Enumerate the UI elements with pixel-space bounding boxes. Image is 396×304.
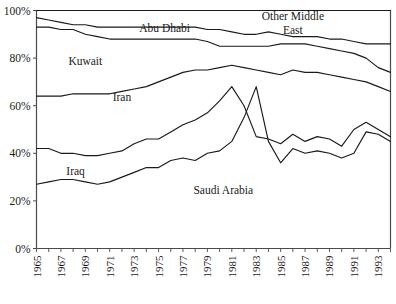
y-tick-label: 80% (9, 52, 31, 64)
y-tick-label: 20% (9, 195, 31, 207)
cumulative-share-line-chart: 0%20%40%60%80%100% Saudi ArabiaIraqIranK… (0, 0, 396, 304)
y-tick-label: 60% (9, 100, 31, 112)
series-label: Abu Dhabi (139, 22, 190, 34)
x-tick-label: 1965 (31, 255, 43, 278)
series-label: Saudi Arabia (193, 184, 253, 196)
x-tick-labels: 1965196719691971197319751977197919811983… (31, 255, 385, 278)
x-tick-label: 1967 (55, 255, 67, 278)
x-tick-label: 1989 (323, 255, 335, 278)
x-tick-label: 1987 (299, 255, 311, 278)
series-label: Iran (113, 91, 132, 103)
series-label: Kuwait (68, 55, 103, 67)
y-tick-label: 100% (4, 5, 31, 17)
y-tick-label: 0% (15, 243, 31, 255)
x-tick-label: 1985 (275, 255, 287, 278)
x-tick-label: 1983 (250, 255, 262, 278)
series-label: Other Middle (262, 10, 324, 22)
x-tick-label: 1993 (372, 255, 384, 278)
series-label: Iraq (66, 165, 85, 178)
x-tick-label: 1969 (79, 255, 91, 278)
x-tick-label: 1991 (348, 256, 360, 278)
x-tick-label: 1973 (128, 255, 140, 278)
x-tick-label: 1975 (153, 255, 165, 278)
y-tick-label: 40% (9, 147, 31, 159)
x-tick-label: 1977 (177, 255, 189, 278)
x-tick-label: 1981 (226, 256, 238, 278)
series-label: East (283, 24, 304, 36)
x-tick-label: 1971 (104, 256, 116, 278)
chart-container: 0%20%40%60%80%100% Saudi ArabiaIraqIranK… (0, 0, 396, 304)
x-tick-label: 1979 (201, 255, 213, 278)
